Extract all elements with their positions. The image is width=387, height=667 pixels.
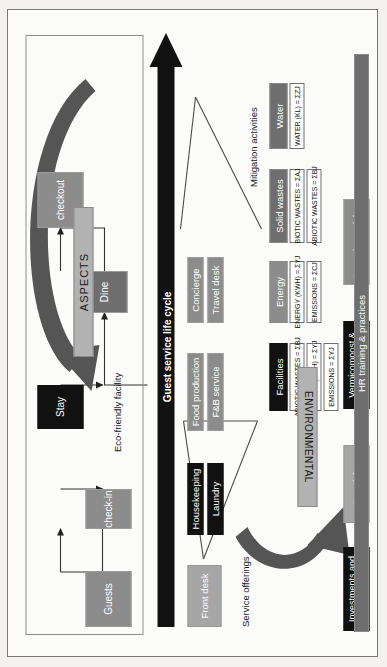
lifecycle-node-stay[interactable]: Stay xyxy=(37,385,83,429)
hr-training-bar-label: HR training & practices xyxy=(356,294,367,391)
diagram-canvas: Guests check-in Stay Dine checkout Eco-f… xyxy=(7,9,378,657)
environmental-banner: ENVIRONMENTAL xyxy=(297,367,317,507)
aspect-row-solid-biotic: BIOTIC WASTES = ΣAJ xyxy=(289,169,304,243)
service-offering-concierge[interactable]: Concierge xyxy=(187,257,203,323)
environmental-curved-arrow xyxy=(235,507,349,569)
aspect-row-energy-energy: ENERGY (KWH) = ΣYJ xyxy=(289,261,304,323)
mitigation-activities-label: Mitigation activities xyxy=(247,107,258,187)
service-offerings-label: Service offerings xyxy=(239,556,250,627)
aspect-header-facilities[interactable]: Facilities xyxy=(269,343,287,411)
aspect-row-energy-emissions: EMISSIONS = ΣCJ xyxy=(306,261,321,323)
aspect-row-solid-abiotic: ABIOTIC WASTES = ΣBJ xyxy=(306,169,321,243)
lifecycle-node-guests[interactable]: Guests xyxy=(85,571,131,627)
aspect-header-solid-wastes[interactable]: Solid wastes xyxy=(269,169,287,243)
service-offering-fnb-service[interactable]: F&B service xyxy=(207,353,223,431)
aspect-row-facilities-emissions: EMISSIONS = ΣYJ xyxy=(323,343,338,411)
aspects-banner: ASPECTS xyxy=(73,207,93,357)
eco-friendly-facility-label: Eco-friendly facility xyxy=(111,373,122,452)
aspect-header-energy[interactable]: Energy xyxy=(269,261,287,323)
lifecycle-node-check-in[interactable]: check-in xyxy=(85,489,131,529)
lifecycle-arrow-label: Guest service life cycle xyxy=(158,97,174,597)
hr-training-bar[interactable]: HR training & practices xyxy=(354,54,369,632)
service-offering-housekeeping[interactable]: Housekeeping xyxy=(187,463,203,535)
page-frame: Guests check-in Stay Dine checkout Eco-f… xyxy=(7,9,378,657)
aspect-row-water-water: WATER (KL) = ΣZJ xyxy=(289,83,304,149)
service-offering-laundry[interactable]: Laundry xyxy=(207,463,223,535)
aspect-header-water[interactable]: Water xyxy=(269,83,287,149)
service-offering-travel-desk[interactable]: Travel desk xyxy=(207,257,223,323)
service-offering-front-desk[interactable]: Front desk xyxy=(187,565,221,627)
service-offering-food-production[interactable]: Food production xyxy=(187,353,203,431)
